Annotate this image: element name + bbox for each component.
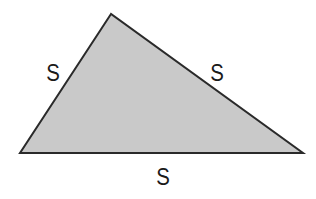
bottom-side-label: S <box>156 165 170 189</box>
left-side-label: S <box>46 61 60 85</box>
triangle-shape <box>20 14 303 153</box>
right-side-label: S <box>210 61 224 85</box>
